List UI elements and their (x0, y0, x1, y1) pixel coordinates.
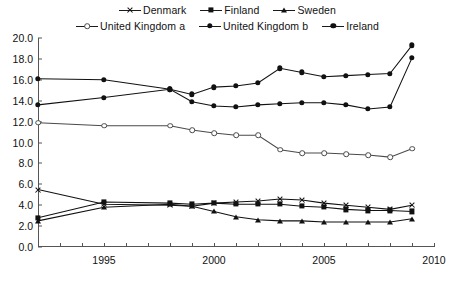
legend-label: Sweden (295, 4, 336, 16)
y-axis-tick-label: 14.0 (13, 95, 38, 107)
legend-item-united-kingdom-a[interactable]: United Kingdom a (76, 20, 185, 32)
y-axis-tick-label: 0.0 (18, 241, 38, 253)
x-axis-tick-label: 2000 (202, 247, 225, 266)
legend-line-sample (119, 5, 141, 15)
line-denmark (38, 190, 412, 210)
line-united-kingdom-a (38, 123, 412, 157)
chart-container: DenmarkFinlandSwedenUnited Kingdom aUnit… (0, 0, 455, 285)
y-axis-tick-label: 12.0 (13, 116, 38, 128)
x-axis-tick-label: 2010 (422, 247, 445, 266)
legend-item-finland[interactable]: Finland (200, 4, 259, 16)
legend-label: United Kingdom b (221, 20, 308, 32)
y-axis-tick-label: 8.0 (18, 157, 38, 169)
legend-label: Ireland (344, 20, 379, 32)
legend-line-sample (273, 5, 295, 15)
y-axis-tick-label: 10.0 (13, 137, 38, 149)
line-finland (38, 202, 412, 218)
legend-row: United Kingdom aUnited Kingdom bIreland (0, 18, 455, 34)
y-axis-tick-label: 16.0 (13, 74, 38, 86)
legend-line-sample (76, 21, 98, 31)
legend-item-ireland[interactable]: Ireland (322, 20, 379, 32)
legend-item-sweden[interactable]: Sweden (273, 4, 336, 16)
legend-item-united-kingdom-b[interactable]: United Kingdom b (199, 20, 308, 32)
plot-area: 0.02.04.06.08.010.012.014.016.018.020.0 … (38, 38, 434, 247)
y-axis-tick-label: 18.0 (13, 53, 38, 65)
legend-line-sample (200, 5, 222, 15)
legend-line-sample (322, 21, 344, 31)
line-sweden (38, 204, 412, 222)
legend-line-sample (199, 21, 221, 31)
legend-row: DenmarkFinlandSweden (0, 2, 455, 18)
x-axis-tick-label: 2005 (312, 247, 335, 266)
legend-item-denmark[interactable]: Denmark (119, 4, 186, 16)
y-axis-tick-label: 4.0 (18, 199, 38, 211)
legend-label: United Kingdom a (98, 20, 185, 32)
line-united-kingdom-b (38, 58, 412, 109)
y-axis-tick-label: 20.0 (13, 32, 38, 44)
legend-label: Denmark (141, 4, 186, 16)
legend-label: Finland (222, 4, 259, 16)
chart-legend: DenmarkFinlandSwedenUnited Kingdom aUnit… (0, 2, 455, 34)
line-ireland (38, 45, 412, 94)
x-axis-tick-label: 1995 (92, 247, 115, 266)
